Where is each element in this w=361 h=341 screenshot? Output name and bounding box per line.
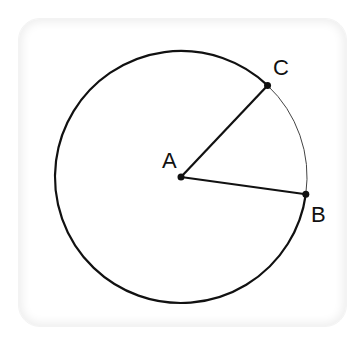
label-b: B (311, 202, 326, 227)
minor-arc-cb (268, 85, 307, 194)
diagram-stage: A B C (0, 0, 361, 341)
point-c (264, 82, 271, 89)
label-c: C (273, 55, 289, 80)
point-b (302, 191, 309, 198)
label-a: A (162, 148, 177, 173)
circle-diagram: A B C (0, 0, 361, 341)
point-a (178, 174, 185, 181)
radius-ab (181, 177, 306, 194)
radius-ac (181, 85, 268, 177)
